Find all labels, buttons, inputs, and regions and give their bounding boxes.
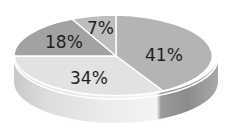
slice-label-41: 41% (145, 45, 183, 65)
slice-label-18: 18% (45, 32, 83, 52)
pie-chart-3d: 41% 34% 18% 7% (0, 0, 228, 137)
slice-label-7: 7% (87, 18, 114, 38)
slice-label-34: 34% (70, 68, 108, 88)
